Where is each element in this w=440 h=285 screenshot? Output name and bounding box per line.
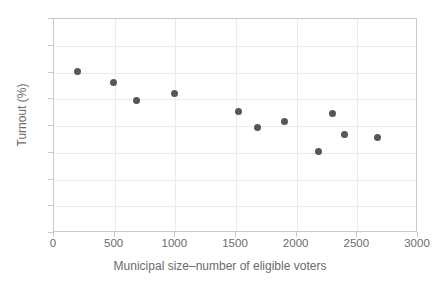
x-axis-tick-mark bbox=[417, 232, 418, 237]
gridline-vertical bbox=[236, 19, 237, 231]
x-axis-tick-label: 0 bbox=[23, 238, 83, 250]
x-axis-tick-label: 2000 bbox=[266, 238, 326, 250]
gridline-horizontal bbox=[54, 126, 416, 127]
gridline-vertical bbox=[175, 19, 176, 231]
gridline-horizontal bbox=[54, 180, 416, 181]
x-axis-tick-mark bbox=[114, 232, 115, 237]
gridline-vertical bbox=[297, 19, 298, 231]
gridline-vertical bbox=[115, 19, 116, 231]
x-axis-tick-label: 1500 bbox=[205, 238, 265, 250]
x-axis-tick-label: 3000 bbox=[387, 238, 440, 250]
gridline-horizontal bbox=[54, 153, 416, 154]
plot-area bbox=[53, 18, 417, 232]
data-point bbox=[171, 90, 178, 97]
gridline-horizontal bbox=[54, 99, 416, 100]
gridline-horizontal bbox=[54, 46, 416, 47]
x-axis-tick-mark bbox=[296, 232, 297, 237]
gridline-horizontal bbox=[54, 73, 416, 74]
data-point bbox=[341, 131, 348, 138]
x-axis-tick-mark bbox=[356, 232, 357, 237]
x-axis-tick-mark bbox=[174, 232, 175, 237]
data-point bbox=[133, 97, 140, 104]
data-point bbox=[329, 110, 336, 117]
data-point bbox=[374, 134, 381, 141]
x-axis-label: Municipal size–number of eligible voters bbox=[0, 259, 440, 273]
data-point bbox=[110, 79, 117, 86]
x-axis-tick-label: 1000 bbox=[144, 238, 204, 250]
gridline-vertical bbox=[357, 19, 358, 231]
x-axis-tick-label: 500 bbox=[84, 238, 144, 250]
scatter-chart-figure: Turnout (%) 6065707580859095100 05001000… bbox=[0, 0, 440, 285]
gridline-horizontal bbox=[54, 206, 416, 207]
y-axis-label: Turnout (%) bbox=[15, 45, 29, 185]
data-point bbox=[315, 148, 322, 155]
x-axis-tick-mark bbox=[53, 232, 54, 237]
x-axis-tick-label: 2500 bbox=[326, 238, 386, 250]
data-point bbox=[235, 108, 242, 115]
x-axis-tick-mark bbox=[235, 232, 236, 237]
data-point bbox=[281, 118, 288, 125]
data-point bbox=[254, 124, 261, 131]
data-point bbox=[74, 68, 81, 75]
